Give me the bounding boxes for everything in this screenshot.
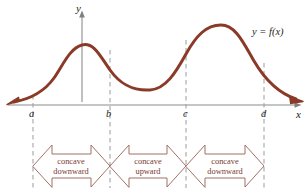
band-label-line2: downward <box>47 167 95 177</box>
y-axis-label: y <box>76 3 81 14</box>
tick-label-a: a <box>29 109 34 120</box>
band-label-line1: concave <box>124 157 172 167</box>
band-label-concave-downward-right: concave downward <box>201 157 249 178</box>
tick-label-c: c <box>183 109 188 120</box>
band-label-concave-upward: concave upward <box>124 157 172 178</box>
band-label-line2: upward <box>124 167 172 177</box>
band-label-line1: concave <box>47 157 95 167</box>
band-label-line1: concave <box>201 157 249 167</box>
x-axis-label: x <box>296 109 301 120</box>
tick-label-d: d <box>261 109 266 120</box>
band-label-line2: downward <box>201 167 249 177</box>
concavity-figure: y x a b c d y = f(x) concave downward co… <box>0 0 308 194</box>
tick-label-b: b <box>106 109 111 120</box>
band-label-concave-downward-left: concave downward <box>47 157 95 178</box>
function-label: y = f(x) <box>252 27 284 38</box>
